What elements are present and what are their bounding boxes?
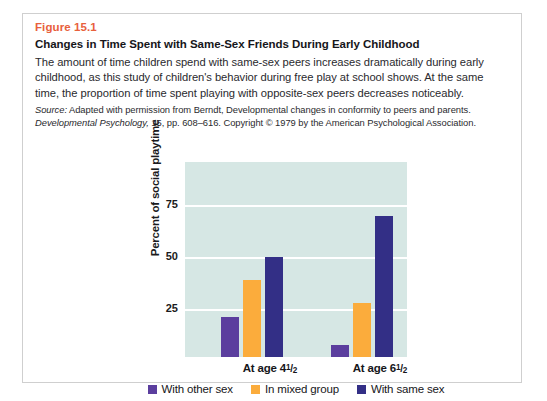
bar-age6-with-other-sex <box>331 345 349 357</box>
figure-card: Figure 15.1 Changes in Time Spent with S… <box>22 13 522 383</box>
y-axis-title: Percent of social playtime <box>149 118 165 258</box>
x-label-age6-text: At age 6 <box>353 362 396 374</box>
bar-age4-in-mixed-group <box>243 280 261 357</box>
bar-age6-with-same-sex <box>375 216 393 357</box>
x-axis-label-age4: At age 41/2 <box>215 362 325 375</box>
chart-legend: With other sex In mixed group With same … <box>129 383 463 395</box>
gridline-75 <box>185 205 407 207</box>
x-label-age6-denominator: 2 <box>403 366 407 375</box>
figure-description: The amount of time children spend with s… <box>35 55 505 101</box>
legend-label-with-other-sex: With other sex <box>162 383 233 395</box>
bar-age4-with-same-sex <box>265 257 283 357</box>
gridline-25 <box>185 309 407 311</box>
gridline-50 <box>185 257 407 259</box>
source-line-2: 15, pp. 608–616. Copyright © 1979 by the… <box>149 117 476 128</box>
bar-age6-in-mixed-group <box>353 303 371 357</box>
legend-label-in-mixed-group: In mixed group <box>265 383 339 395</box>
plot-area <box>185 162 407 357</box>
figure-source: Source: Adapted with permission from Ber… <box>35 104 507 129</box>
source-journal: Developmental Psychology, <box>35 117 149 128</box>
source-label: Source: <box>35 104 67 115</box>
y-tick-label-75: 75 <box>138 198 178 210</box>
figure-title: Changes in Time Spent with Same-Sex Frie… <box>35 38 513 50</box>
legend-item-in-mixed-group: In mixed group <box>251 383 339 395</box>
x-label-age4-denominator: 2 <box>293 366 297 375</box>
figure-number: Figure 15.1 <box>35 21 97 33</box>
bar-age4-with-other-sex <box>221 317 239 357</box>
x-label-age4-text: At age 4 <box>243 362 286 374</box>
legend-label-with-same-sex: With same sex <box>371 383 444 395</box>
bar-chart: Percent of social playtime 75 50 25 At a… <box>123 146 463 376</box>
legend-swatch-icon-with-other-sex <box>148 385 157 394</box>
legend-item-with-other-sex: With other sex <box>148 383 233 395</box>
legend-swatch-icon-with-same-sex <box>357 385 366 394</box>
x-axis-label-age6: At age 61/2 <box>325 362 435 375</box>
legend-item-with-same-sex: With same sex <box>357 383 444 395</box>
source-line-1: Adapted with permission from Berndt, Dev… <box>67 104 471 115</box>
y-tick-label-25: 25 <box>138 302 178 314</box>
y-tick-label-50: 50 <box>138 250 178 262</box>
legend-swatch-icon-in-mixed-group <box>251 385 260 394</box>
